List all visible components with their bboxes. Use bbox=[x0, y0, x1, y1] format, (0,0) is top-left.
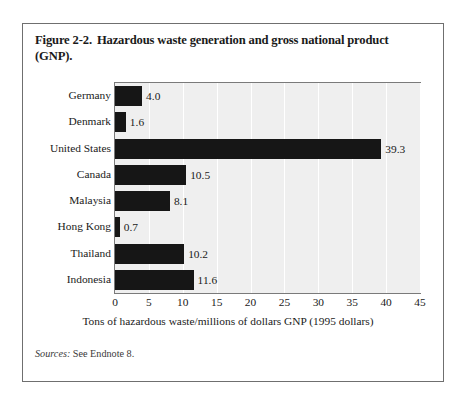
bar-value-label: 10.2 bbox=[188, 248, 208, 260]
x-tick-label: 35 bbox=[347, 295, 358, 309]
figure-box: Figure 2-2.Hazardous waste generation an… bbox=[22, 23, 444, 382]
bar bbox=[115, 244, 184, 264]
x-tick-label: 10 bbox=[177, 295, 188, 309]
category-label: Canada bbox=[23, 168, 111, 180]
x-tick-label: 45 bbox=[414, 295, 425, 309]
category-label: Malaysia bbox=[23, 194, 111, 206]
figure-number: Figure 2-2. bbox=[35, 33, 92, 47]
bar-row: 11.6 bbox=[115, 270, 420, 290]
gridline bbox=[420, 83, 421, 293]
bar-row: 8.1 bbox=[115, 191, 420, 211]
category-label: Thailand bbox=[23, 247, 111, 259]
bar-value-label: 0.7 bbox=[124, 221, 138, 233]
category-label: United States bbox=[23, 142, 111, 154]
bar bbox=[115, 112, 126, 132]
category-label: Indonesia bbox=[23, 273, 111, 285]
bar bbox=[115, 139, 381, 159]
x-tick-label: 15 bbox=[211, 295, 222, 309]
bar-value-label: 39.3 bbox=[385, 143, 405, 155]
bar-value-label: 11.6 bbox=[198, 274, 218, 286]
sources-text: See Endnote 8. bbox=[73, 348, 134, 359]
bar bbox=[115, 217, 120, 237]
x-axis-title: Tons of hazardous waste/millions of doll… bbox=[23, 314, 433, 328]
bar-row: 39.3 bbox=[115, 139, 420, 159]
bar-value-label: 10.5 bbox=[190, 169, 210, 181]
x-tick-label: 20 bbox=[245, 295, 256, 309]
figure-title-line1: Hazardous waste generation and gross nat… bbox=[97, 33, 389, 47]
bar bbox=[115, 191, 170, 211]
category-axis-labels: GermanyDenmarkUnited StatesCanadaMalaysi… bbox=[23, 82, 111, 294]
bar bbox=[115, 270, 194, 290]
x-tick-label: 40 bbox=[380, 295, 391, 309]
category-label: Germany bbox=[23, 89, 111, 101]
figure-title-line2: (GNP). bbox=[35, 49, 72, 63]
bar-row: 1.6 bbox=[115, 112, 420, 132]
bar-row: 0.7 bbox=[115, 217, 420, 237]
sources-label: Sources: bbox=[35, 348, 70, 359]
bar bbox=[115, 165, 186, 185]
bar-value-label: 1.6 bbox=[130, 116, 144, 128]
x-tick-label: 25 bbox=[279, 295, 290, 309]
bar-value-label: 8.1 bbox=[174, 195, 188, 207]
bar-value-label: 4.0 bbox=[146, 90, 160, 102]
x-tick-label: 5 bbox=[146, 295, 152, 309]
figure-caption: Figure 2-2.Hazardous waste generation an… bbox=[35, 33, 433, 64]
category-label: Hong Kong bbox=[23, 220, 111, 232]
x-tick-label: 30 bbox=[313, 295, 324, 309]
bar-series: 4.01.639.310.58.10.710.211.6 bbox=[115, 83, 420, 293]
bar-row: 10.2 bbox=[115, 244, 420, 264]
plot-area: 4.01.639.310.58.10.710.211.6 bbox=[114, 82, 421, 294]
category-label: Denmark bbox=[23, 115, 111, 127]
bar-row: 4.0 bbox=[115, 86, 420, 106]
bar-chart: GermanyDenmarkUnited StatesCanadaMalaysi… bbox=[23, 82, 445, 344]
sources-note: Sources: See Endnote 8. bbox=[35, 347, 134, 360]
x-axis-tick-labels: 051015202530354045 bbox=[114, 295, 421, 311]
bar bbox=[115, 86, 142, 106]
bar-row: 10.5 bbox=[115, 165, 420, 185]
x-tick-label: 0 bbox=[112, 295, 118, 309]
